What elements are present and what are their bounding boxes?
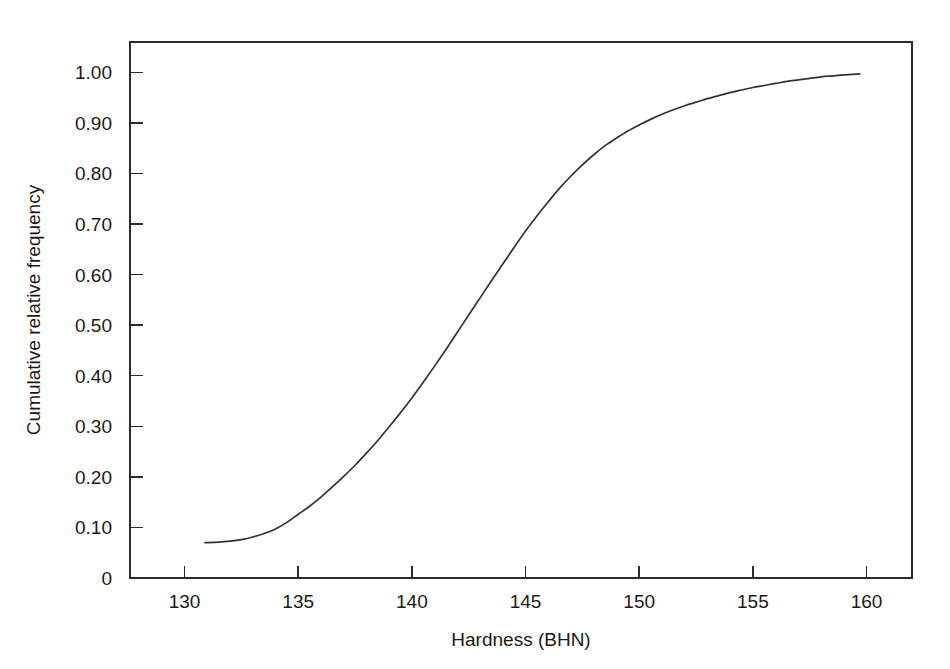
x-tick-label: 150 bbox=[623, 591, 655, 612]
y-tick-label: 0.70 bbox=[75, 214, 112, 235]
x-axis-ticks: 130135140145150155160 bbox=[169, 566, 883, 612]
y-tick-label: 0.90 bbox=[75, 113, 112, 134]
y-tick-label: 0.40 bbox=[75, 366, 112, 387]
x-tick-label: 155 bbox=[737, 591, 769, 612]
y-tick-label: 0.10 bbox=[75, 517, 112, 538]
chart-figure: 00.100.200.300.400.500.600.700.800.901.0… bbox=[0, 0, 950, 669]
y-tick-label: 0.20 bbox=[75, 467, 112, 488]
plot-frame bbox=[130, 42, 912, 578]
y-axis-title: Cumulative relative frequency bbox=[23, 184, 44, 435]
y-tick-label: 0.30 bbox=[75, 416, 112, 437]
x-tick-label: 135 bbox=[282, 591, 314, 612]
y-tick-label: 0.50 bbox=[75, 315, 112, 336]
y-tick-label: 0 bbox=[101, 568, 112, 589]
y-tick-label: 0.60 bbox=[75, 265, 112, 286]
y-axis-ticks: 00.100.200.300.400.500.600.700.800.901.0… bbox=[75, 62, 143, 589]
x-tick-label: 140 bbox=[396, 591, 428, 612]
y-tick-label: 1.00 bbox=[75, 62, 112, 83]
x-tick-label: 145 bbox=[510, 591, 542, 612]
data-series-cumulative-relative-frequency bbox=[205, 74, 860, 543]
chart-canvas: 00.100.200.300.400.500.600.700.800.901.0… bbox=[0, 0, 950, 669]
y-tick-label: 0.80 bbox=[75, 163, 112, 184]
x-tick-label: 160 bbox=[851, 591, 883, 612]
x-tick-label: 130 bbox=[169, 591, 201, 612]
x-axis-title: Hardness (BHN) bbox=[451, 629, 590, 650]
